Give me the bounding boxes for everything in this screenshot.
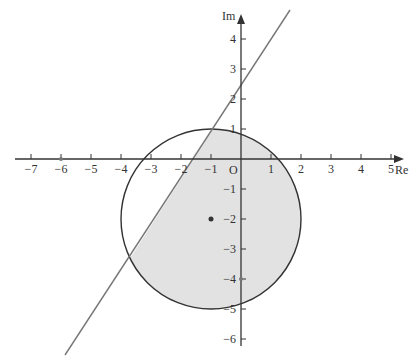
x-tick-label: −2 (175, 162, 188, 176)
y-tick-label: −6 (223, 332, 236, 346)
x-tick-label: 1 (268, 162, 274, 176)
y-axis-label: Im (222, 9, 236, 23)
y-tick-label: 4 (230, 32, 236, 46)
x-axis-arrow-icon (394, 155, 404, 163)
x-tick-label: −7 (25, 162, 38, 176)
marked-point-neg6 (59, 157, 63, 161)
shaded-region (65, 10, 419, 359)
x-tick-label: 2 (298, 162, 304, 176)
circle-center-point (209, 217, 214, 222)
marked-point-neg4i (239, 277, 243, 281)
x-tick-label: −6 (55, 162, 68, 176)
x-tick-label: 4 (358, 162, 364, 176)
x-tick-label: 3 (328, 162, 334, 176)
x-tick-label: −3 (145, 162, 158, 176)
x-tick-label: −4 (115, 162, 128, 176)
origin-label: O (229, 163, 238, 177)
y-tick-label: 1 (230, 122, 236, 136)
x-tick-label: −1 (205, 162, 218, 176)
y-tick-label: −3 (223, 242, 236, 256)
y-tick-label: −2 (223, 212, 236, 226)
y-tick-label: −4 (223, 272, 236, 286)
x-tick-label: −5 (85, 162, 98, 176)
y-tick-label: 2 (230, 92, 236, 106)
y-axis-arrow-icon (237, 14, 245, 24)
y-tick-label: −5 (223, 302, 236, 316)
y-tick-label: 3 (230, 62, 236, 76)
x-tick-label: 5 (388, 162, 394, 176)
argand-diagram: −7−6−5−4−3−2−112345 4321−1−2−3−4−5−6 Re … (0, 0, 419, 359)
y-tick-label: −1 (223, 182, 236, 196)
x-axis-label: Re (395, 163, 408, 177)
